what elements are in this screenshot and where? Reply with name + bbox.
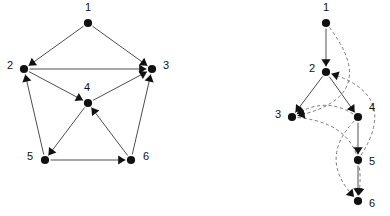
edge-left-1-to-3 [93, 26, 148, 65]
graph-figure: 123456123456 [0, 0, 390, 216]
node-label-left-4: 4 [84, 81, 90, 93]
graph-canvas: 123456123456 [0, 0, 390, 216]
node-left-2[interactable] [20, 65, 28, 73]
edge-left-4-to-3 [93, 72, 147, 101]
arrowhead-left-5-2 [22, 74, 31, 82]
edges-layer [25, 26, 375, 197]
arrowhead-right-4-5 [353, 147, 362, 154]
node-label-right-1: 1 [323, 1, 329, 13]
node-right-2[interactable] [322, 68, 330, 76]
node-label-right-6: 6 [369, 197, 375, 209]
edge-left-5-to-2 [25, 74, 43, 154]
node-labels-layer: 123456123456 [7, 1, 375, 209]
arrowhead-left-6-4 [91, 107, 99, 116]
node-right-5[interactable] [354, 156, 362, 164]
node-label-left-3: 3 [163, 59, 169, 71]
nodes-layer [20, 19, 362, 205]
edge-left-6-to-3 [132, 74, 150, 154]
node-label-left-6: 6 [143, 150, 149, 162]
arrowhead-left-6-3 [145, 74, 154, 82]
node-left-5[interactable] [41, 156, 49, 164]
edge-right-4-to-6 [336, 121, 354, 197]
edge-right-3-to-6 [298, 118, 361, 196]
node-left-4[interactable] [84, 99, 92, 107]
arrowhead-right-4-6 [346, 189, 354, 197]
edge-left-6-to-4 [91, 107, 127, 155]
node-right-1[interactable] [322, 19, 330, 27]
edge-left-2-to-4 [29, 72, 83, 101]
edge-right-5-to-2 [331, 74, 374, 156]
node-right-6[interactable] [354, 197, 362, 205]
arrowheads-layer [22, 58, 364, 197]
node-label-right-2: 2 [309, 62, 315, 74]
node-label-right-5: 5 [369, 155, 375, 167]
arrowhead-left-1-3 [139, 58, 148, 66]
node-right-4[interactable] [354, 113, 362, 121]
arrowhead-left-5-6 [118, 155, 125, 164]
edge-left-1-to-2 [29, 26, 84, 65]
arrowhead-left-1-2 [29, 58, 38, 66]
node-left-3[interactable] [148, 65, 156, 73]
node-label-left-1: 1 [85, 1, 91, 13]
node-left-6[interactable] [127, 156, 135, 164]
arrowhead-left-4-5 [48, 147, 56, 156]
arrowhead-right-1-2 [321, 59, 330, 66]
node-label-left-5: 5 [27, 150, 33, 162]
node-label-right-3: 3 [275, 108, 281, 120]
node-label-left-2: 2 [7, 59, 13, 71]
node-left-1[interactable] [84, 19, 92, 27]
node-right-3[interactable] [288, 113, 296, 121]
edge-left-4-to-5 [48, 107, 84, 155]
node-label-right-4: 4 [369, 101, 375, 113]
